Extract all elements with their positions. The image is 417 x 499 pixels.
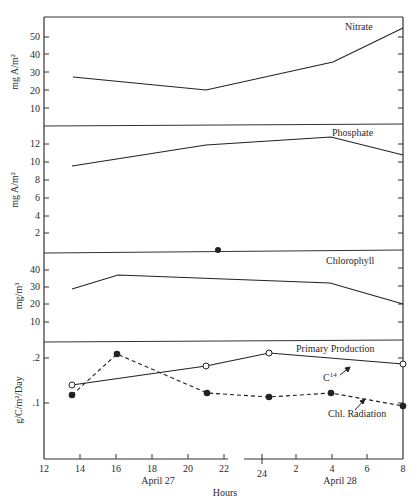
svg-text:24: 24 [257, 468, 267, 479]
svg-text:16: 16 [111, 463, 121, 474]
april28-label: April 28 [323, 475, 357, 486]
svg-text:12: 12 [39, 463, 49, 474]
svg-text:20: 20 [183, 463, 193, 474]
svg-text:14: 14 [75, 463, 85, 474]
svg-text:22: 22 [219, 463, 229, 474]
svg-text:2: 2 [294, 463, 299, 474]
svg-text:8: 8 [35, 174, 40, 185]
svg-text:20: 20 [30, 298, 40, 309]
april27-label: April 27 [141, 475, 175, 486]
svg-text:18: 18 [147, 463, 157, 474]
phosphate-line [72, 137, 403, 166]
c14-label: C14 [323, 371, 337, 383]
svg-text:10: 10 [30, 156, 40, 167]
svg-text:8: 8 [401, 463, 406, 474]
chlorophyll-line [72, 275, 403, 304]
primary-production-title: Primary Production [296, 343, 375, 354]
svg-text:6: 6 [365, 463, 370, 474]
c14-line [72, 353, 403, 385]
svg-text:6: 6 [35, 192, 40, 203]
svg-text:50: 50 [30, 31, 40, 42]
svg-text:10: 10 [30, 316, 40, 327]
svg-text:30: 30 [30, 67, 40, 78]
y-tick-labels: 50 40 30 20 10 12 10 8 6 4 2 40 30 20 10… [30, 31, 40, 408]
svg-text:20: 20 [30, 85, 40, 96]
svg-text:10: 10 [30, 103, 40, 114]
svg-text:40: 40 [30, 264, 40, 275]
svg-text:.1: .1 [33, 397, 41, 408]
svg-text:2: 2 [35, 227, 40, 238]
phosphate-ylabel: mg A/m² [9, 172, 20, 208]
chl-radiation-label: Chl. Radiation [328, 408, 386, 419]
svg-text:40: 40 [30, 49, 40, 60]
nitrate-line [73, 28, 403, 90]
plot-frame [44, 17, 403, 459]
nitrate-title: Nitrate [345, 21, 373, 32]
x-axis-label: Hours [213, 487, 238, 498]
nitrate-ylabel: mg A/m² [9, 54, 20, 90]
svg-text:4: 4 [330, 463, 335, 474]
annotation-arrows [340, 367, 365, 410]
phosphate-title: Phosphate [332, 127, 374, 138]
stray-dot [215, 247, 221, 253]
chart-figure: Nitrate Phosphate Chlorophyll Primary Pr… [0, 0, 417, 499]
pp-ylabel: g/C/m²/Day [13, 376, 24, 423]
svg-text:12: 12 [30, 138, 40, 149]
svg-text:4: 4 [35, 210, 40, 221]
svg-text:30: 30 [30, 281, 40, 292]
svg-text:.2: .2 [33, 352, 41, 363]
chl-radiation-line [72, 354, 403, 406]
chlorophyll-title: Chlorophyll [326, 255, 375, 266]
chlorophyll-ylabel: mg/m³ [13, 283, 24, 309]
